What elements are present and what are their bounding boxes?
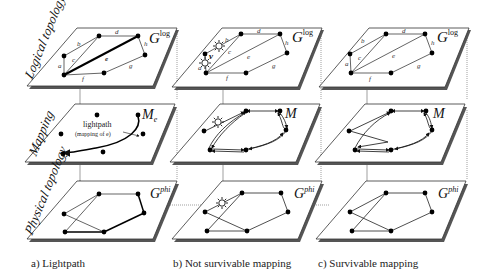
edge-label-h: h bbox=[431, 39, 435, 47]
panel-b-logical-plane: a b c d e f g h v Glog bbox=[172, 27, 324, 90]
plane-label-m: M bbox=[432, 106, 446, 121]
edge-label-d: d bbox=[402, 27, 406, 35]
panel-b-physical-plane: Gphi bbox=[172, 181, 324, 242]
edge-label-h: h bbox=[285, 39, 289, 47]
edge-label-g: g bbox=[417, 62, 421, 70]
failure-icon bbox=[212, 116, 224, 128]
edge-label-h: h bbox=[144, 40, 148, 48]
panel-b-mapping-plane: M bbox=[170, 104, 322, 165]
plane-label-m: M bbox=[284, 106, 298, 121]
edge-label-e: e bbox=[247, 53, 250, 61]
caption-a: a) Lightpath bbox=[31, 257, 85, 269]
edge-label-g: g bbox=[272, 62, 276, 70]
panel-c-physical-plane: Gphi bbox=[316, 181, 468, 242]
edge-label-a: a bbox=[198, 64, 202, 72]
edge-label-b: b bbox=[361, 37, 365, 45]
edge-label-b: b bbox=[225, 36, 229, 44]
lightpath-label: lightpath bbox=[83, 120, 111, 129]
failure-icon bbox=[213, 40, 225, 52]
lightpath-sublabel: (mapping of e) bbox=[75, 131, 111, 138]
failure-icon bbox=[216, 197, 228, 209]
caption-c: c) Survivable mapping bbox=[318, 257, 418, 269]
edge-label-d: d bbox=[115, 28, 119, 36]
edge-label-d: d bbox=[257, 27, 261, 35]
panel-c-logical-plane: a b c d e f g h Glog bbox=[319, 27, 471, 90]
edge-label-b: b bbox=[77, 40, 81, 48]
edge-label-e: e bbox=[105, 55, 108, 63]
panel-c-mapping-plane: M bbox=[315, 104, 467, 165]
edge-label-g: g bbox=[129, 62, 133, 70]
edge-label-e: e bbox=[392, 52, 395, 60]
survivable-mapping-diagram: a b c d e f g h Glog lightpath (mapping … bbox=[0, 0, 494, 276]
edge-label-a: a bbox=[58, 62, 62, 70]
caption-b: b) Not survivable mapping bbox=[173, 257, 291, 269]
edge-label-a: a bbox=[345, 60, 349, 68]
